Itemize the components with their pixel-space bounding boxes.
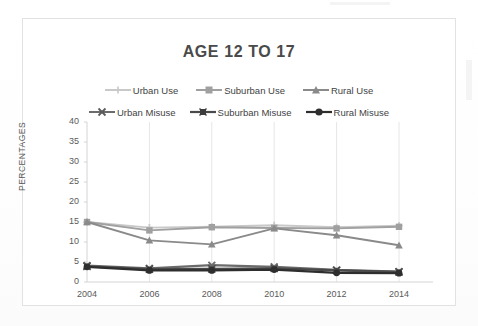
data-point-marker (333, 225, 339, 231)
x-tick-label: 2014 (379, 289, 419, 299)
data-point-marker (333, 269, 340, 276)
y-tick-label: 35 (59, 136, 79, 146)
grid-layer (149, 122, 399, 282)
y-tick-label: 0 (59, 276, 79, 286)
y-tick-label: 5 (59, 256, 79, 266)
data-point-marker (146, 227, 152, 233)
data-point-marker (396, 270, 403, 277)
data-point-marker (271, 266, 278, 273)
x-tick-label: 2004 (67, 289, 107, 299)
y-tick-label: 15 (59, 216, 79, 226)
x-tick-label: 2010 (254, 289, 294, 299)
y-tick-label: 30 (59, 156, 79, 166)
x-tick-label: 2008 (192, 289, 232, 299)
axis-layer (84, 122, 433, 282)
series-layer (83, 218, 403, 276)
data-point-marker (208, 267, 215, 274)
x-tick-label: 2012 (317, 289, 357, 299)
series-rural-use (83, 218, 403, 248)
y-tick-label: 40 (59, 116, 79, 126)
series-urban-use (83, 218, 402, 231)
x-tick-label: 2006 (129, 289, 169, 299)
scan-artifact (330, 2, 390, 5)
data-point-marker (84, 263, 91, 270)
chart-container: AGE 12 TO 17 Urban Use (22, 18, 456, 306)
scan-artifact (466, 60, 472, 100)
data-point-marker (209, 224, 215, 230)
y-tick-label: 10 (59, 236, 79, 246)
data-point-marker (396, 224, 402, 230)
plot-canvas (23, 19, 457, 307)
data-point-marker (146, 267, 153, 274)
y-tick-label: 20 (59, 196, 79, 206)
screenshot-page: AGE 12 TO 17 Urban Use (0, 0, 478, 326)
y-tick-label: 25 (59, 176, 79, 186)
